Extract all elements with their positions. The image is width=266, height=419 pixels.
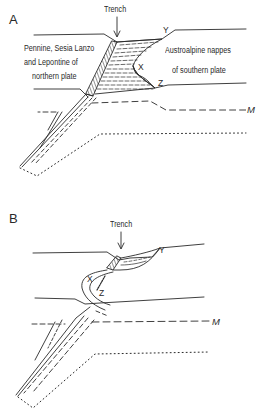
panel-b-point-x: X — [87, 275, 93, 284]
panel-b-drawing — [16, 244, 210, 408]
subduction-diagram-figure: A Trench Pennine, Sesia Lanzo and Lepont… — [0, 0, 266, 419]
panel-a-point-z: Z — [158, 79, 163, 88]
panel-b-moho-label: M — [212, 317, 220, 327]
panel-a-point-y: Y — [163, 26, 169, 35]
panel-a-trench-label: Trench — [104, 5, 126, 14]
panel-a-letter: A — [9, 13, 18, 26]
northern-plate-label-line3: northern plate — [32, 72, 77, 81]
panel-b-point-z: Z — [99, 289, 104, 298]
trench-arrow-a — [114, 17, 120, 37]
southern-plate-label-line1: Austroalpine nappes — [165, 46, 231, 55]
panel-a-moho-label: M — [247, 105, 255, 115]
northern-plate-label-line2: and Lepontine of — [24, 58, 78, 67]
panel-b-letter: B — [9, 212, 18, 225]
southern-plate-label-line2: of southern plate — [172, 66, 226, 75]
northern-plate-label-line1: Pennine, Sesia Lanzo — [24, 44, 94, 53]
panel-a-point-x: X — [138, 63, 144, 72]
panel-b-trench-label: Trench — [110, 220, 132, 229]
trench-arrow-b — [118, 232, 124, 249]
panel-b-point-y: Y — [159, 246, 165, 255]
